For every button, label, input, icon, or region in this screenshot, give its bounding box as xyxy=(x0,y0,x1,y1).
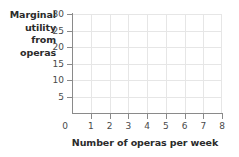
x-axis-tick-label: 6 xyxy=(178,122,192,131)
y-axis-tick xyxy=(67,80,72,81)
x-axis-tick xyxy=(147,114,148,119)
y-axis-tick-label: 5 xyxy=(42,93,64,102)
x-axis-origin-label: 0 xyxy=(58,122,72,131)
y-axis-tick-label: 20 xyxy=(42,43,64,52)
x-axis-tick-label: 7 xyxy=(196,122,210,131)
y-axis-tick-label: 25 xyxy=(42,27,64,36)
plot-area xyxy=(72,14,222,113)
y-axis-tick-label: 30 xyxy=(42,10,64,19)
x-axis-title: Number of operas per week xyxy=(60,137,230,148)
y-axis-tick xyxy=(67,31,72,32)
x-axis-tick xyxy=(166,114,167,119)
x-axis-tick-label: 4 xyxy=(140,122,154,131)
gridline-vertical xyxy=(203,14,204,113)
x-axis-tick-label: 3 xyxy=(121,122,135,131)
gridline-vertical xyxy=(91,14,92,113)
y-axis-tick xyxy=(67,14,72,15)
x-axis-tick-label: 8 xyxy=(215,122,229,131)
gridline-vertical xyxy=(110,14,111,113)
x-axis-tick xyxy=(91,114,92,119)
gridline-vertical xyxy=(221,14,222,113)
gridline-vertical xyxy=(147,14,148,113)
x-axis-tick xyxy=(128,114,129,119)
x-axis-tick-label: 5 xyxy=(159,122,173,131)
x-axis-tick xyxy=(222,114,223,119)
x-axis-tick-label: 2 xyxy=(103,122,117,131)
y-axis-tick xyxy=(67,47,72,48)
y-axis-tick xyxy=(67,64,72,65)
y-axis-line xyxy=(72,13,73,114)
y-axis-tick xyxy=(67,97,72,98)
gridline-vertical xyxy=(185,14,186,113)
x-axis-tick-label: 1 xyxy=(84,122,98,131)
gridline-vertical xyxy=(166,14,167,113)
x-axis-tick xyxy=(185,114,186,119)
y-axis-tick-label: 15 xyxy=(42,60,64,69)
gridline-vertical xyxy=(128,14,129,113)
x-axis-tick xyxy=(203,114,204,119)
x-axis-tick xyxy=(110,114,111,119)
y-axis-tick-label: 10 xyxy=(42,76,64,85)
chart-figure: Marginal utility from operas 30 25 20 15… xyxy=(0,0,239,157)
